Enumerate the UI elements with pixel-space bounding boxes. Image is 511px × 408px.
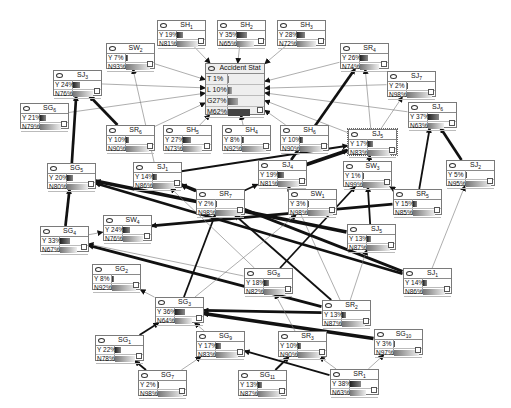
node-toggle-icon[interactable]	[106, 218, 113, 223]
resize-handle-icon[interactable]	[263, 143, 269, 149]
node-toggle-icon[interactable]	[325, 303, 332, 308]
node-toggle-icon[interactable]	[50, 166, 57, 171]
resize-handle-icon[interactable]	[94, 88, 100, 94]
node-toggle-icon[interactable]	[208, 66, 215, 71]
resize-handle-icon[interactable]	[147, 61, 153, 67]
resize-handle-icon[interactable]	[81, 244, 87, 250]
resize-handle-icon[interactable]	[285, 286, 291, 292]
node-sg11[interactable]: SG11Y 13%N87%	[238, 370, 287, 396]
resize-handle-icon[interactable]	[237, 207, 243, 213]
node-sr4[interactable]: SR4Y 26%N74%	[340, 43, 389, 69]
node-toggle-icon[interactable]	[390, 74, 397, 79]
resize-handle-icon[interactable]	[487, 178, 493, 184]
resize-handle-icon[interactable]	[258, 38, 264, 44]
resize-handle-icon[interactable]	[144, 233, 150, 239]
node-toggle-icon[interactable]	[160, 23, 167, 28]
resize-handle-icon[interactable]	[136, 353, 142, 359]
node-sw1[interactable]: SW1Y 3%N98%	[288, 189, 337, 215]
node-sj1[interactable]: SJ1Y 14%N86%	[133, 162, 182, 188]
node-toggle-icon[interactable]	[280, 23, 287, 28]
node-sj5b[interactable]: SJ5Y 13%N87%	[347, 224, 396, 250]
node-toggle-icon[interactable]	[136, 165, 143, 170]
node-toggle-icon[interactable]	[43, 229, 50, 234]
resize-handle-icon[interactable]	[179, 388, 185, 394]
node-accident-status[interactable]: Accident Stat T 1% L 10% G27% M62%	[205, 63, 265, 115]
resize-handle-icon[interactable]	[88, 181, 94, 187]
node-sj7[interactable]: SJ7Y 2%N98%	[387, 71, 436, 97]
node-sh1[interactable]: SH1Y 19%N81%	[157, 20, 206, 46]
resize-handle-icon[interactable]	[319, 349, 325, 355]
node-toggle-icon[interactable]	[166, 128, 173, 133]
resize-handle-icon[interactable]	[444, 286, 450, 292]
node-sj5[interactable]: SJ5Y 17%N83%	[348, 129, 397, 155]
node-toggle-icon[interactable]	[109, 46, 116, 51]
node-toggle-icon[interactable]	[449, 163, 456, 168]
resize-handle-icon[interactable]	[198, 38, 204, 44]
node-sr2[interactable]: SR2Y 13%N87%	[322, 300, 371, 326]
node-toggle-icon[interactable]	[199, 192, 206, 197]
node-toggle-icon[interactable]	[56, 73, 63, 78]
node-sj3[interactable]: SJ3Y 24%N76%	[53, 70, 102, 96]
node-toggle-icon[interactable]	[199, 334, 206, 339]
resize-handle-icon[interactable]	[204, 143, 210, 149]
node-sh6[interactable]: SH6Y 10%N90%	[280, 125, 329, 151]
node-toggle-icon[interactable]	[333, 372, 340, 377]
node-sh3[interactable]: SH3Y 28%N72%	[277, 20, 326, 46]
node-sj2[interactable]: SJ2Y 5%N95%	[446, 160, 495, 186]
resize-handle-icon[interactable]	[428, 89, 434, 95]
node-sh5[interactable]: SH5Y 27%N73%	[163, 125, 212, 151]
node-sr3[interactable]: SR3Y 10%N90%	[278, 331, 327, 357]
node-sh4[interactable]: SH4Y 8%N92%	[222, 125, 271, 151]
node-sr1[interactable]: SR1Y 38%N63%	[330, 369, 379, 395]
resize-handle-icon[interactable]	[389, 147, 395, 153]
resize-handle-icon[interactable]	[381, 61, 387, 67]
node-toggle-icon[interactable]	[23, 106, 30, 111]
resize-handle-icon[interactable]	[321, 143, 327, 149]
resize-handle-icon[interactable]	[257, 107, 263, 113]
node-toggle-icon[interactable]	[411, 105, 418, 110]
node-toggle-icon[interactable]	[158, 300, 165, 305]
resize-handle-icon[interactable]	[147, 143, 153, 149]
node-toggle-icon[interactable]	[406, 271, 413, 276]
node-toggle-icon[interactable]	[241, 373, 248, 378]
node-toggle-icon[interactable]	[261, 163, 268, 168]
node-toggle-icon[interactable]	[377, 332, 384, 337]
resize-handle-icon[interactable]	[415, 347, 421, 353]
node-toggle-icon[interactable]	[350, 227, 357, 232]
node-sg9[interactable]: SG9Y 17%N83%	[196, 331, 245, 357]
node-toggle-icon[interactable]	[98, 338, 105, 343]
node-toggle-icon[interactable]	[351, 132, 358, 137]
node-toggle-icon[interactable]	[95, 267, 102, 272]
resize-handle-icon[interactable]	[174, 180, 180, 186]
node-toggle-icon[interactable]	[346, 164, 353, 169]
node-toggle-icon[interactable]	[396, 192, 403, 197]
resize-handle-icon[interactable]	[61, 121, 67, 127]
resize-handle-icon[interactable]	[371, 387, 377, 393]
node-sg1[interactable]: SG1Y 22%N78%	[95, 335, 144, 361]
resize-handle-icon[interactable]	[237, 349, 243, 355]
node-toggle-icon[interactable]	[109, 128, 116, 133]
node-sw3[interactable]: SW3Y 1%N99%	[343, 161, 392, 187]
node-sr7[interactable]: SR7Y 2%N98%	[196, 189, 245, 215]
node-sr5[interactable]: SR5Y 15%N85%	[393, 189, 442, 215]
resize-handle-icon[interactable]	[196, 315, 202, 321]
resize-handle-icon[interactable]	[279, 388, 285, 394]
node-toggle-icon[interactable]	[247, 271, 254, 276]
node-sg8[interactable]: SG8Y 18%N82%	[244, 268, 293, 294]
node-sg7[interactable]: SG7Y 2%N98%	[138, 370, 187, 396]
node-sj6[interactable]: SJ6Y 37%N63%	[408, 102, 457, 128]
node-toggle-icon[interactable]	[343, 46, 350, 51]
node-sj1b[interactable]: SJ1Y 14%N86%	[403, 268, 452, 294]
node-sh2[interactable]: SH2Y 35%N65%	[217, 20, 266, 46]
resize-handle-icon[interactable]	[299, 178, 305, 184]
resize-handle-icon[interactable]	[384, 179, 390, 185]
resize-handle-icon[interactable]	[449, 120, 455, 126]
resize-handle-icon[interactable]	[434, 207, 440, 213]
node-sg2[interactable]: SG2Y 8%N92%	[92, 264, 141, 290]
node-sj4[interactable]: SJ4Y 19%N81%	[258, 160, 307, 186]
resize-handle-icon[interactable]	[388, 242, 394, 248]
node-sg3[interactable]: SG3Y 36%N64%	[155, 297, 204, 323]
node-sg4[interactable]: SG4Y 33%N67%	[40, 226, 89, 252]
node-toggle-icon[interactable]	[141, 373, 148, 378]
node-sg10[interactable]: SG10Y 3%N97%	[374, 329, 423, 355]
